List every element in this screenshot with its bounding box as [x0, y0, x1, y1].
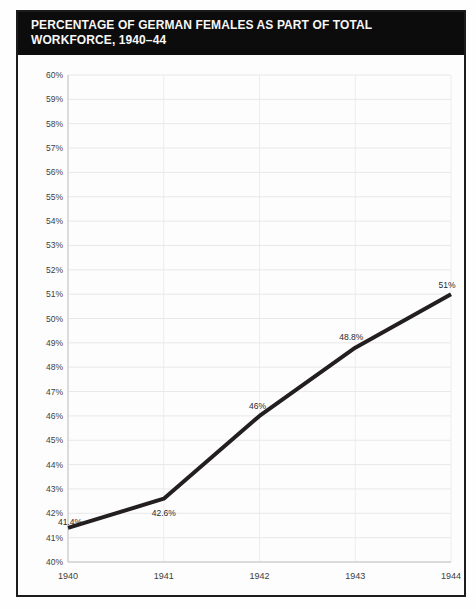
y-tick-label: 53%	[46, 240, 63, 250]
y-tick-label: 44%	[46, 460, 63, 470]
data-point-labels: 41.4%42.6%46%48.8%51%	[58, 280, 456, 527]
y-tick-label: 41%	[46, 533, 63, 543]
y-tick-label: 51%	[46, 289, 63, 299]
x-axis-tick-labels: 19401941194219431944	[58, 571, 461, 581]
gridlines	[68, 75, 451, 562]
x-tick-label: 1941	[154, 571, 174, 581]
y-tick-label: 48%	[46, 362, 63, 372]
y-tick-label: 56%	[46, 167, 63, 177]
y-tick-label: 60%	[46, 70, 63, 80]
x-tick-label: 1942	[249, 571, 269, 581]
point-label: 51%	[438, 280, 455, 290]
x-tick-label: 1943	[345, 571, 365, 581]
y-tick-label: 59%	[46, 94, 63, 104]
point-label: 46%	[249, 401, 266, 411]
chart-container: PERCENTAGE OF GERMAN FEMALES AS PART OF …	[16, 10, 466, 597]
x-tick-label: 1940	[58, 571, 78, 581]
y-tick-label: 47%	[46, 387, 63, 397]
chart-title-bar: PERCENTAGE OF GERMAN FEMALES AS PART OF …	[18, 12, 464, 55]
y-tick-label: 52%	[46, 265, 63, 275]
y-tick-label: 54%	[46, 216, 63, 226]
y-axis-tick-labels: 40%41%42%43%44%45%46%47%48%49%50%51%52%5…	[46, 70, 63, 567]
y-tick-label: 40%	[46, 557, 63, 567]
y-tick-label: 43%	[46, 484, 63, 494]
y-tick-label: 57%	[46, 143, 63, 153]
point-label: 41.4%	[58, 517, 83, 527]
y-tick-label: 46%	[46, 411, 63, 421]
point-label: 48.8%	[339, 332, 364, 342]
chart-title: PERCENTAGE OF GERMAN FEMALES AS PART OF …	[31, 18, 451, 47]
y-tick-label: 45%	[46, 435, 63, 445]
y-tick-label: 55%	[46, 192, 63, 202]
page: PERCENTAGE OF GERMAN FEMALES AS PART OF …	[0, 0, 476, 609]
x-tick-label: 1944	[441, 571, 461, 581]
point-label: 42.6%	[152, 508, 177, 518]
y-tick-label: 58%	[46, 119, 63, 129]
y-tick-label: 50%	[46, 314, 63, 324]
line-chart: 40%41%42%43%44%45%46%47%48%49%50%51%52%5…	[18, 55, 464, 595]
y-tick-label: 49%	[46, 338, 63, 348]
